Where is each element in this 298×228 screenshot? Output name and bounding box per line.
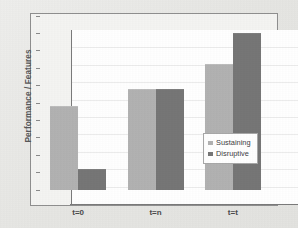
bar-sustaining-tt xyxy=(205,64,233,190)
gridline xyxy=(71,65,298,66)
y-axis-tick xyxy=(36,16,40,17)
y-axis-tick xyxy=(36,190,40,191)
chart-legend[interactable]: SustainingDisruptive xyxy=(203,133,258,164)
gridline xyxy=(71,100,298,101)
x-axis-label-tn: t=n xyxy=(117,208,194,217)
bar-disruptive-t0 xyxy=(78,169,106,191)
chart-screenshot: Performance / Features t=0t=nt=t Sustain… xyxy=(0,0,298,228)
gridline xyxy=(71,117,298,118)
bar-sustaining-t0 xyxy=(50,106,78,191)
gridline xyxy=(71,134,298,135)
gridline xyxy=(71,82,298,83)
chart-frame: Performance / Features t=0t=nt=t Sustain… xyxy=(30,13,278,206)
x-axis-label-t0: t=0 xyxy=(40,208,117,217)
y-axis-tick xyxy=(36,33,40,34)
legend-swatch-icon xyxy=(208,152,213,157)
y-axis-tick xyxy=(36,137,40,138)
bar-disruptive-tn xyxy=(156,89,184,191)
legend-item-disruptive[interactable]: Disruptive xyxy=(208,149,253,159)
gridline xyxy=(71,152,298,153)
y-axis-tick xyxy=(36,103,40,104)
bar-disruptive-tt xyxy=(233,33,261,191)
y-axis-tick xyxy=(36,85,40,86)
y-axis-tick xyxy=(36,50,40,51)
x-axis-line xyxy=(70,204,298,205)
gridline xyxy=(71,47,298,48)
x-axis-label-tt: t=t xyxy=(194,208,271,217)
legend-label: Disruptive xyxy=(216,150,249,157)
y-axis-tick xyxy=(36,155,40,156)
y-axis-tick xyxy=(36,68,40,69)
y-axis-tick xyxy=(36,172,40,173)
bar-sustaining-tn xyxy=(128,89,156,191)
y-axis-tick xyxy=(36,120,40,121)
y-axis-title: Performance / Features xyxy=(21,36,35,156)
legend-swatch-icon xyxy=(208,141,213,146)
legend-item-sustaining[interactable]: Sustaining xyxy=(208,138,253,148)
legend-label: Sustaining xyxy=(216,139,251,146)
